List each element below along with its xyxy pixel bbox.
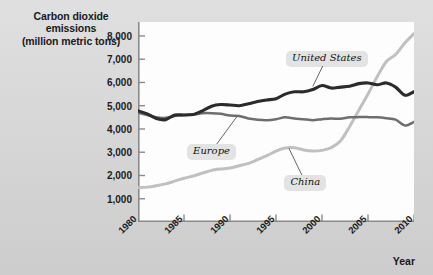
x-axis-tick-label: 1995 — [254, 213, 277, 236]
x-axis-tick-label: 1990 — [208, 213, 231, 236]
x-axis-tick-label: 2010 — [392, 213, 415, 236]
callout-label-united-states: United States — [286, 51, 367, 66]
x-axis-tick-label: 2005 — [346, 213, 369, 236]
callout-label-china: China — [284, 175, 326, 190]
co2-emissions-line-chart: Carbon dioxide emissions (million metric… — [0, 0, 433, 275]
x-axis-tick-label: 1985 — [162, 213, 185, 236]
x-axis-title: Year — [393, 255, 415, 267]
x-axis-tick-label: 1980 — [116, 213, 139, 236]
x-axis-tick-labels: 1980198519901995200020052010 — [0, 0, 433, 275]
callout-label-europe: Europe — [187, 144, 236, 159]
x-axis-tick-label: 2000 — [300, 213, 323, 236]
